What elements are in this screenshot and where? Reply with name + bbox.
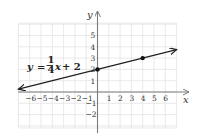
equation-label: y = 1 4 x + 2	[26, 54, 81, 75]
y-tick-label: 4	[91, 43, 96, 52]
data-point	[141, 56, 145, 60]
y-tick-label: 1	[91, 77, 96, 86]
svg-text:x: x	[54, 61, 62, 72]
x-tick-label: 1	[107, 94, 112, 103]
x-tick-label: −2	[70, 94, 81, 103]
x-tick-labels: −6−5−4−3−2−1123456	[25, 94, 168, 103]
svg-text:y: y	[26, 61, 34, 72]
svg-text:4: 4	[48, 64, 55, 75]
x-tick-label: 3	[129, 94, 134, 103]
x-tick-label: 4	[141, 94, 146, 103]
y-axis-label: y	[86, 9, 93, 20]
svg-text:+ 2: + 2	[62, 61, 81, 72]
data-point	[95, 67, 99, 71]
x-tick-label: −5	[37, 94, 48, 103]
y-tick-label: 5	[91, 31, 96, 40]
coordinate-graph: x y −6−5−4−3−2−1123456 54321−1−2 y = 1 4…	[0, 0, 201, 137]
y-tick-label: −1	[86, 99, 97, 108]
x-tick-label: −3	[59, 94, 70, 103]
x-tick-label: 2	[118, 94, 123, 103]
y-tick-label: −2	[86, 110, 97, 119]
y-tick-labels: 54321−1−2	[86, 31, 97, 119]
x-tick-label: 5	[152, 94, 157, 103]
x-axis-label: x	[183, 94, 189, 105]
y-tick-label: 3	[91, 54, 96, 63]
x-tick-label: −6	[25, 94, 36, 103]
x-tick-label: 6	[163, 94, 168, 103]
x-tick-label: −4	[48, 94, 59, 103]
svg-text:=: =	[37, 61, 45, 72]
